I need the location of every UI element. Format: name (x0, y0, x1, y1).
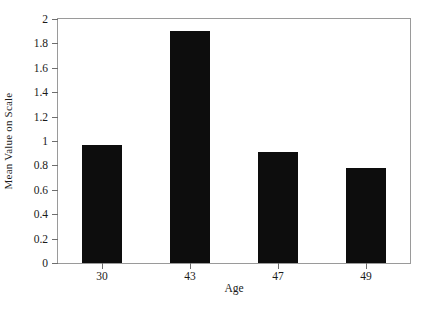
x-axis-tick (102, 263, 103, 269)
bar (258, 152, 298, 263)
x-axis-tick (366, 263, 367, 269)
x-axis-tick-label: 49 (360, 271, 372, 283)
y-axis-tick: 2 (52, 19, 58, 20)
y-axis-tick: 0.4 (52, 214, 58, 215)
bar (346, 168, 386, 263)
y-axis-tick-label: 1.6 (34, 63, 48, 75)
x-axis-title: Age (224, 282, 243, 294)
y-axis-tick: 1 (52, 141, 58, 142)
bars-layer (58, 19, 410, 263)
y-axis-tick-label: 1.4 (34, 87, 48, 99)
y-axis-tick: 0.6 (52, 190, 58, 191)
bar (82, 145, 122, 263)
y-axis-tick: 0.2 (52, 239, 58, 240)
bar (170, 31, 210, 263)
y-axis-tick-label: 0.6 (34, 185, 48, 197)
y-axis-tick-label: 0.8 (34, 161, 48, 173)
y-axis-tick-label: 0.2 (34, 234, 48, 246)
x-axis-tick-label: 43 (184, 271, 196, 283)
y-axis-tick: 1.6 (52, 68, 58, 69)
y-axis-tick-label: 1 (42, 136, 48, 148)
x-axis-tick (190, 263, 191, 269)
y-axis-tick-label: 1.2 (34, 112, 48, 124)
y-axis-tick-label: 0.4 (34, 209, 48, 221)
y-axis-tick-label: 0 (42, 258, 48, 270)
y-axis-title: Mean Value on Scale (2, 93, 14, 190)
y-axis-tick: 1.8 (52, 43, 58, 44)
x-axis-tick-label: 47 (272, 271, 284, 283)
y-axis-tick: 1.4 (52, 92, 58, 93)
y-axis-tick: 0 (52, 263, 58, 264)
plot-area: 00.20.40.60.811.21.41.61.82 30434749 (57, 18, 411, 264)
y-axis-tick: 1.2 (52, 117, 58, 118)
x-axis-tick (278, 263, 279, 269)
x-axis-tick-label: 30 (96, 271, 108, 283)
bar-chart-figure: 00.20.40.60.811.21.41.61.82 30434749 Mea… (0, 0, 434, 309)
y-axis-tick-label: 2 (42, 14, 48, 26)
y-axis-tick-label: 1.8 (34, 39, 48, 51)
y-axis-tick: 0.8 (52, 165, 58, 166)
